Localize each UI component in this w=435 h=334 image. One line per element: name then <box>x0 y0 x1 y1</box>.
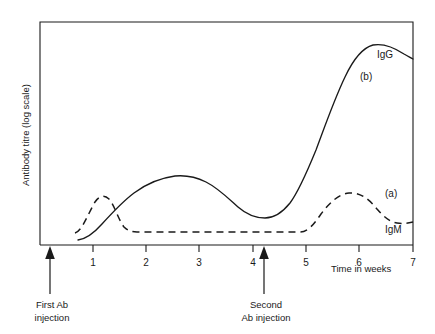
x-axis-ticks <box>93 245 413 252</box>
igm-label: IgM <box>385 224 402 235</box>
immune-response-chart: 1 2 3 4 5 6 7 Antibody titre (log scale)… <box>0 0 435 334</box>
second-injection-label-line1: Second <box>250 299 282 310</box>
chart-figure: 1 2 3 4 5 6 7 Antibody titre (log scale)… <box>0 0 435 334</box>
x-tick-label-1: 1 <box>90 257 96 268</box>
second-injection-arrow-icon <box>259 246 269 294</box>
x-tick-label-2: 2 <box>143 257 149 268</box>
y-axis-title: Antibody titre (log scale) <box>20 84 31 186</box>
first-injection-label-line2: injection <box>35 312 70 323</box>
first-injection-arrow-icon <box>45 246 55 294</box>
igm-alt-label: (a) <box>385 188 397 199</box>
x-tick-label-4: 4 <box>250 257 256 268</box>
igg-label: IgG <box>377 49 393 60</box>
x-axis-title: Time in weeks <box>331 263 392 274</box>
igg-alt-label: (b) <box>360 71 372 82</box>
plot-frame <box>40 22 413 245</box>
x-tick-label-3: 3 <box>196 257 202 268</box>
x-tick-label-5: 5 <box>303 257 309 268</box>
second-injection-label-line2: Ab injection <box>241 312 290 323</box>
x-tick-label-7: 7 <box>410 257 416 268</box>
first-injection-label-line1: First Ab <box>36 299 68 310</box>
igm-curve <box>75 193 413 233</box>
